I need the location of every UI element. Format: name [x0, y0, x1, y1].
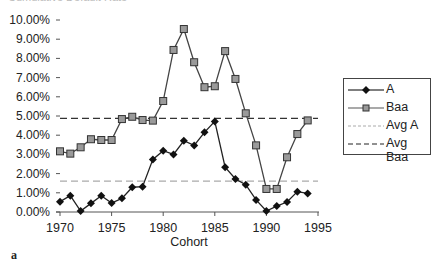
baa-marker [129, 113, 136, 120]
x-tick-label: 1990 [252, 221, 280, 235]
baa-marker [253, 142, 260, 149]
legend-label: Baa [386, 100, 408, 114]
legend-item-baa: Baa [344, 99, 432, 117]
y-tick-label: 3.00% [16, 147, 50, 161]
a-marker [56, 198, 64, 206]
y-tick-label: 5.00% [16, 109, 50, 123]
panel-label: a [11, 248, 17, 263]
baa-marker [273, 185, 280, 192]
baa-marker [108, 137, 115, 144]
a-marker [304, 189, 312, 197]
baa-marker [191, 59, 198, 66]
x-tick-label: 1975 [98, 221, 126, 235]
y-tick-label: 2.00% [16, 167, 50, 181]
baa-marker [149, 117, 156, 124]
baa-marker [294, 131, 301, 138]
x-tick-label: 1970 [46, 221, 74, 235]
baa-marker [304, 117, 311, 124]
baa-marker [211, 83, 218, 90]
diamond-marker-icon [348, 84, 386, 96]
y-tick-label: 4.00% [16, 128, 50, 142]
baa-marker [57, 148, 64, 155]
a-line [60, 121, 308, 211]
legend-item-avg-baa: Avg Baa [344, 135, 432, 153]
baa-marker [284, 154, 291, 161]
legend-label: A [386, 82, 394, 96]
legend-label: Avg Baa [386, 136, 432, 164]
baa-marker [232, 75, 239, 82]
baa-marker [139, 117, 146, 124]
baa-marker [170, 46, 177, 53]
a-marker [273, 202, 281, 210]
baa-marker [242, 110, 249, 117]
baa-marker [67, 150, 74, 157]
average-lines [60, 118, 318, 181]
y-tick-label: 7.00% [16, 71, 50, 85]
data-series [56, 26, 312, 216]
dashed-line-icon [348, 138, 386, 150]
baa-marker [222, 48, 229, 55]
baa-line [60, 29, 308, 189]
a-marker [66, 192, 74, 200]
dashed-line-icon [348, 120, 386, 132]
legend: A Baa Avg A Avg Baa [343, 78, 431, 155]
x-tick-label: 1985 [201, 221, 229, 235]
baa-marker [118, 116, 125, 123]
legend-label: Avg A [386, 118, 418, 132]
y-tick-label: 9.00% [16, 32, 50, 46]
a-marker [108, 199, 116, 207]
baa-marker [180, 26, 187, 33]
y-tick-label: 1.00% [16, 186, 50, 200]
y-tick-label: 8.00% [16, 51, 50, 65]
legend-item-avg-a: Avg A [344, 117, 432, 135]
x-tick-label: 1980 [149, 221, 177, 235]
square-marker-icon [348, 102, 386, 114]
baa-marker [263, 185, 270, 192]
y-tick-label: 0.00% [16, 205, 50, 219]
y-axis: 0.00%1.00%2.00%3.00%4.00%5.00%6.00%7.00%… [9, 13, 60, 219]
baa-marker [201, 84, 208, 91]
x-tick-label: 1995 [304, 221, 332, 235]
legend-item-a: A [344, 81, 432, 99]
x-axis-title: Cohort [170, 235, 208, 249]
baa-marker [77, 144, 84, 151]
a-marker [242, 181, 250, 189]
y-tick-label: 10.00% [9, 13, 50, 27]
a-marker [139, 183, 147, 191]
baa-marker [160, 98, 167, 105]
y-tick-label: 6.00% [16, 90, 50, 104]
baa-marker [87, 136, 94, 143]
x-axis: 197019751980198519901995 [46, 212, 332, 235]
baa-marker [98, 137, 105, 144]
